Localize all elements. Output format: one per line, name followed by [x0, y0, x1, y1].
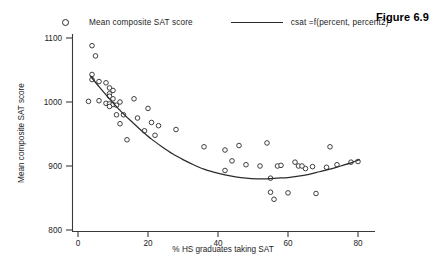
y-tick-label: 1000 [44, 98, 63, 107]
data-point [324, 165, 329, 170]
data-point [114, 113, 119, 118]
data-point [237, 143, 242, 148]
data-point [156, 123, 161, 128]
y-tick-label: 900 [48, 162, 62, 171]
data-point [97, 79, 102, 84]
x-tick-label: 60 [283, 239, 293, 248]
data-point [223, 168, 228, 173]
y-axis-title: Mean composite SAT score [17, 83, 26, 183]
data-point [202, 145, 207, 150]
data-point [293, 160, 298, 165]
x-axis-ticks [78, 232, 358, 238]
y-tick-label: 800 [48, 226, 62, 235]
y-axis-tick-labels: 80090010001100 [44, 34, 63, 235]
data-point [223, 148, 228, 153]
data-point [107, 104, 112, 109]
data-point [230, 159, 235, 164]
y-axis: 80090010001100 [44, 34, 73, 235]
x-tick-label: 20 [143, 239, 153, 248]
scatter-plot: 80090010001100 020406080 % HS graduates … [0, 0, 441, 266]
data-point [90, 43, 95, 48]
data-point [244, 162, 249, 167]
data-point [153, 133, 158, 138]
data-point [104, 81, 109, 86]
data-point [265, 141, 270, 146]
y-tick-label: 1100 [44, 34, 62, 43]
data-point [149, 120, 154, 125]
data-point [286, 191, 291, 196]
data-point [328, 145, 333, 150]
data-point [93, 54, 98, 59]
data-point [272, 197, 277, 202]
data-point [279, 163, 284, 168]
data-point [314, 191, 319, 196]
regression-curve [90, 76, 360, 179]
data-point [118, 121, 123, 126]
data-point [135, 116, 140, 121]
x-axis-title: % HS graduates taking SAT [172, 245, 273, 254]
figure-container: Mean composite SAT score csat =f(percent… [0, 0, 441, 266]
data-point [86, 99, 91, 104]
data-points [86, 43, 360, 201]
data-point [300, 164, 305, 169]
y-axis-ticks [66, 38, 73, 230]
data-point [258, 164, 263, 169]
data-point [174, 127, 179, 132]
data-point [132, 97, 137, 102]
data-point [146, 106, 151, 111]
data-point [118, 100, 123, 105]
data-point [268, 190, 273, 195]
data-point [310, 164, 315, 169]
x-tick-label: 0 [76, 239, 81, 248]
data-point [125, 137, 130, 142]
data-point [97, 98, 102, 103]
x-tick-label: 80 [353, 239, 363, 248]
